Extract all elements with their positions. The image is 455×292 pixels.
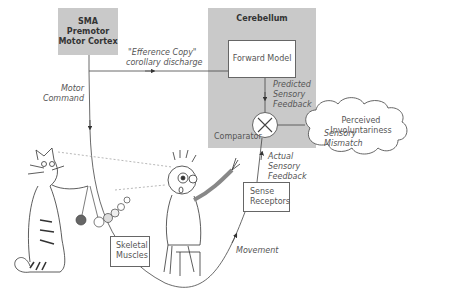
actual-line: Actual <box>268 152 307 162</box>
skeletal-line: Skeletal <box>116 241 149 251</box>
mismatch-line: Mismatch <box>324 139 363 149</box>
predicted-line: Predicted <box>273 80 312 90</box>
efference-line: "Efference Copy" <box>126 48 203 58</box>
movement-label: Movement <box>236 246 278 256</box>
motor-line: Motor <box>40 84 84 94</box>
predicted-feedback-label: Predicted Sensory Feedback <box>273 80 312 110</box>
sense-receptors-box: Sense Receptors <box>243 182 290 212</box>
motor-command-label: Motor Command <box>40 84 84 104</box>
receptors-line: Receptors <box>250 197 289 207</box>
command-line: Command <box>40 94 84 104</box>
forward-model-label: Forward Model <box>233 54 292 64</box>
sensory-line: Sensory <box>268 162 307 172</box>
perceived-involuntariness-label: Perceived Involuntariness <box>318 116 404 136</box>
actual-feedback-label: Actual Sensory Feedback <box>268 152 307 182</box>
skeletal-muscles-box: Skeletal Muscles <box>110 236 150 267</box>
forward-model-box: Forward Model <box>228 40 296 78</box>
motor-cortex-line: Motor Cortex <box>58 37 118 47</box>
comparator-label: Comparator <box>214 132 262 142</box>
feedback-line: Feedback <box>273 100 312 110</box>
premotor-line: Premotor <box>58 27 118 37</box>
feedback-line: Feedback <box>268 172 307 182</box>
efference-copy-label: "Efference Copy" corollary discharge <box>126 48 203 68</box>
corollary-line: corollary discharge <box>126 58 203 68</box>
sma-line: SMA <box>58 17 118 27</box>
pendulum-illustration <box>76 186 130 227</box>
cerebellum-title: Cerebellum <box>208 14 316 24</box>
involuntariness-line: Involuntariness <box>318 126 404 136</box>
perceived-line: Perceived <box>318 116 404 126</box>
sma-box-label: SMA Premotor Motor Cortex <box>58 17 118 47</box>
sense-line: Sense <box>250 187 289 197</box>
cat-illustration <box>15 148 88 272</box>
muscles-line: Muscles <box>116 251 149 261</box>
sensory-line: Sensory <box>273 90 312 100</box>
person-illustration <box>164 150 240 276</box>
